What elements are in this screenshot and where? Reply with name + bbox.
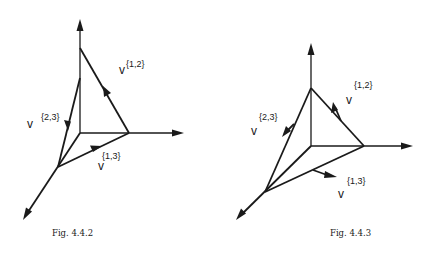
v23-superscript: {2,3} [41, 112, 60, 122]
figure-caption: Fig. 4.4.3 [330, 228, 371, 238]
diagram-canvas: v {1,2} v {2,3} v {1,3} Fig. 4.4.2 v {1,… [0, 0, 432, 253]
v12-superscript: {1,2} [354, 80, 373, 90]
figure-4-4-2: v {1,2} v {2,3} v {1,3} Fig. 4.4.2 [23, 19, 184, 238]
v13-arrowhead-icon [324, 171, 337, 178]
edge-v23 [265, 88, 311, 192]
figure-4-4-3: v {1,2} v {2,3} v {1,3} Fig. 4.4.3 [236, 43, 413, 238]
y-axis-arrowhead-icon [172, 130, 184, 137]
v23-superscript: {2,3} [259, 112, 278, 122]
x-axis [28, 133, 80, 212]
x-axis [241, 146, 311, 215]
y-axis-arrowhead-icon [401, 143, 413, 150]
v13-label: v [338, 187, 344, 201]
v13-superscript: {1,3} [347, 176, 366, 186]
v23-arrowhead-icon [64, 120, 71, 131]
v12-superscript: {1,2} [126, 59, 145, 69]
v23-label: v [27, 117, 33, 131]
v13-superscript: {1,3} [102, 151, 121, 161]
z-axis-arrowhead-icon [77, 19, 84, 31]
figure-caption: Fig. 4.4.2 [52, 228, 93, 238]
v12-label: v [346, 93, 352, 107]
x-axis-arrowhead-icon [236, 209, 246, 221]
z-axis-arrowhead-icon [308, 43, 315, 55]
v12-label: v [119, 63, 125, 77]
v13-label: v [98, 159, 104, 173]
v23-label: v [251, 124, 257, 138]
edge-v12 [311, 88, 364, 146]
